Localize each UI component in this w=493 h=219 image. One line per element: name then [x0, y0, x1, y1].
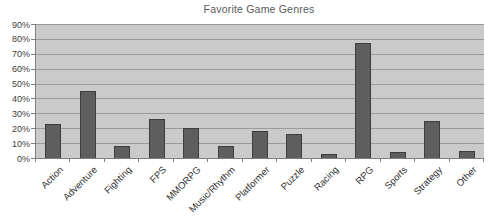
x-tick-label-puzzle: Puzzle — [278, 164, 306, 192]
bar-music-rhythm — [218, 146, 234, 158]
x-axis-tick — [276, 159, 277, 162]
x-axis-tick — [173, 159, 174, 162]
bar-puzzle — [286, 134, 302, 158]
bar-racing — [321, 154, 337, 158]
y-tick-label: 70% — [2, 49, 30, 59]
x-tick-label-platformer: Platformer — [233, 164, 272, 203]
y-axis-tick — [31, 128, 35, 129]
x-tick-label-rpg: RPG — [353, 164, 375, 186]
x-tick-label-other: Other — [454, 164, 479, 189]
y-axis-tick — [31, 39, 35, 40]
x-tick-label-action: Action — [39, 164, 65, 190]
bar-adventure — [80, 91, 96, 158]
bar-action — [45, 124, 61, 158]
bar-platformer — [252, 131, 268, 158]
chart-title: Favorite Game Genres — [35, 3, 483, 15]
x-axis-tick — [449, 159, 450, 162]
y-tick-label: 40% — [2, 94, 30, 104]
x-axis-tick — [380, 159, 381, 162]
y-tick-label: 80% — [2, 34, 30, 44]
y-axis-tick — [31, 24, 35, 25]
x-axis-tick — [69, 159, 70, 162]
y-tick-label: 50% — [2, 79, 30, 89]
y-tick-label: 60% — [2, 64, 30, 74]
bar-fps — [149, 119, 165, 158]
x-axis-tick — [207, 159, 208, 162]
gridline — [36, 113, 484, 114]
y-axis-tick — [31, 143, 35, 144]
x-tick-label-adventure: Adventure — [61, 164, 99, 202]
y-axis-tick — [31, 98, 35, 99]
x-axis-tick — [311, 159, 312, 162]
bar-strategy — [424, 121, 440, 158]
gridline — [36, 128, 484, 129]
gridline — [36, 98, 484, 99]
x-axis-tick — [414, 159, 415, 162]
x-tick-label-fps: FPS — [148, 164, 169, 185]
y-axis-tick — [31, 113, 35, 114]
y-axis-tick — [31, 69, 35, 70]
y-tick-label: 0% — [2, 154, 30, 164]
x-tick-label-racing: Racing — [312, 164, 341, 193]
x-axis-tick — [242, 159, 243, 162]
x-axis-tick — [345, 159, 346, 162]
y-tick-label: 90% — [2, 20, 30, 30]
y-axis-tick — [31, 84, 35, 85]
bar-fighting — [114, 146, 130, 158]
bar-sports — [390, 152, 406, 158]
x-axis-tick — [104, 159, 105, 162]
gridline — [36, 69, 484, 70]
x-axis-tick — [35, 159, 36, 162]
x-tick-label-sports: Sports — [382, 164, 409, 191]
x-tick-label-strategy: Strategy — [411, 164, 444, 197]
gridline — [36, 84, 484, 85]
plot-area — [35, 24, 484, 159]
bar-rpg — [355, 43, 371, 158]
y-tick-label: 30% — [2, 109, 30, 119]
y-tick-label: 20% — [2, 124, 30, 134]
bar-other — [459, 151, 475, 158]
x-axis-tick — [483, 159, 484, 162]
bar-chart: Favorite Game Genres 0%10%20%30%40%50%60… — [0, 0, 493, 219]
gridline — [36, 54, 484, 55]
y-axis-tick — [31, 54, 35, 55]
x-axis-tick — [138, 159, 139, 162]
x-tick-label-fighting: Fighting — [102, 164, 134, 196]
bar-mmorpg — [183, 128, 199, 158]
gridline — [36, 39, 484, 40]
gridline — [36, 24, 484, 25]
y-tick-label: 10% — [2, 139, 30, 149]
